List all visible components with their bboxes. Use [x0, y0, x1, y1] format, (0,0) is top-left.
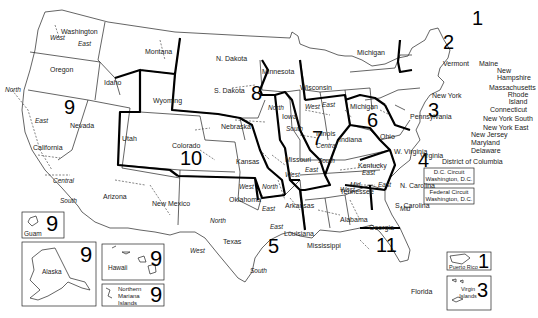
state-michigan-east: Michigan [350, 103, 378, 110]
circuit-8-label: 8 [251, 83, 262, 103]
district-mo-west: West [285, 172, 300, 179]
state-delaware: Delaware [471, 147, 501, 154]
puerto-rico-circuit: 1 [478, 251, 489, 271]
state-iowa: Iowa [282, 113, 297, 120]
state-missouri: Missouri [285, 156, 311, 163]
state-kentucky: Kentucky [358, 162, 387, 169]
state-nevada: Nevada [70, 122, 94, 129]
virgin-islands-label: Virgin Islands [459, 286, 477, 299]
state-s-dakota: S. Dakota [214, 87, 245, 94]
state-colorado: Colorado [172, 142, 200, 149]
state-maine: Maine [479, 60, 498, 67]
district-ia-north: North [268, 105, 284, 112]
state-minnesota: Minnesota [262, 68, 294, 75]
district-wi-east: East [322, 102, 335, 109]
state-new-mexico: New Mexico [152, 200, 190, 207]
state-oregon: Oregon [50, 66, 73, 73]
district-tx-east: East [270, 224, 283, 231]
district-fl-mid: Mid [400, 206, 410, 213]
guam-label: Guam [24, 230, 42, 238]
circuit-5-label: 5 [268, 236, 279, 256]
district-wa-east: East [78, 41, 91, 48]
district-ok-west: West [239, 184, 254, 191]
district-tx-west: West [190, 248, 205, 255]
state-montana: Montana [145, 48, 172, 55]
state-texas: Texas [223, 238, 241, 245]
district-ca-central: Central [53, 178, 74, 185]
district-ok-north: North [262, 184, 278, 191]
federal-circuit-location: Washington, D.C. [424, 196, 474, 203]
district-ca-north: North [5, 87, 21, 94]
state-alabama: Alabama [340, 216, 368, 223]
state-washington: Washington [61, 28, 98, 35]
dc-circuit-title: D.C. Circuit [424, 169, 474, 176]
state-arkansas: Arkansas [285, 202, 314, 209]
district-ky-east: East [362, 170, 375, 177]
state-dc: District of Columbia [442, 158, 503, 165]
circuit-6-label: 6 [367, 110, 378, 130]
state-california: California [33, 144, 63, 151]
guam-circuit: 9 [46, 213, 58, 235]
state-connecticut: Connecticut [490, 106, 527, 113]
puerto-rico-label: Puerto Rico [449, 264, 478, 271]
federal-circuit-title: Federal Circuit [424, 189, 474, 196]
state-rhode-island: Rhode Island [503, 91, 533, 105]
district-tx-north: North [210, 218, 226, 225]
district-wa-west: West [50, 35, 65, 42]
state-indiana: Indiana [339, 136, 362, 143]
district-ia-south: South [286, 126, 303, 133]
state-nebraska: Nebraska [221, 123, 251, 130]
district-ca-east: East [35, 118, 48, 125]
state-idaho: Idaho [104, 79, 122, 86]
state-florida: Florida [411, 288, 432, 295]
state-wyoming: Wyoming [153, 97, 182, 104]
district-ok-east: East [262, 206, 275, 213]
state-new-york-east: New York East [483, 124, 529, 131]
nmi-label: Northern Mariana Islands [118, 286, 152, 308]
state-mississippi: Mississippi [307, 242, 341, 249]
state-louisiana: Louisiana [284, 230, 314, 237]
circuit-11-label: 11 [376, 235, 397, 255]
state-w-virginia: W. Virginia [394, 148, 427, 155]
alaska-label: Alaska [42, 268, 62, 276]
state-wisconsin: Wisconsin [300, 84, 332, 91]
state-georgia: Georgia [369, 224, 394, 231]
district-ca-south: South [60, 198, 77, 205]
state-illinois: Illinois [316, 130, 335, 137]
state-new-york-south: New York South [483, 115, 533, 122]
state-ohio: Ohio [380, 133, 395, 140]
state-vermont: Vermont [443, 60, 469, 67]
state-michigan-west: Michigan [357, 49, 385, 56]
district-tx-south: South [250, 268, 267, 275]
circuit-10-label: 10 [180, 148, 202, 168]
state-n-dakota: N. Dakota [216, 55, 247, 62]
district-mo-east: East [305, 167, 318, 174]
alaska-circuit: 9 [80, 244, 92, 266]
circuit-9-label: 9 [64, 97, 75, 117]
state-oklahoma: Oklahoma [229, 196, 261, 203]
hawaii-circuit: 9 [150, 248, 162, 270]
circuit-1-label: 1 [472, 8, 483, 28]
circuit-map: 1 2 3 4 5 6 7 8 9 10 11 Washington Orego… [0, 0, 538, 318]
state-massachusetts: Massachusetts [489, 84, 536, 91]
district-tn-mid: Mid [350, 182, 360, 189]
state-kansas: Kansas [236, 158, 259, 165]
district-il-central: Central [316, 143, 337, 150]
virgin-islands-circuit: 3 [477, 280, 488, 300]
district-tn-east: East [378, 182, 391, 189]
state-new-jersey: New Jersey [471, 131, 508, 138]
district-wi-west: West [305, 104, 320, 111]
state-utah: Utah [122, 135, 137, 142]
hawaii-label: Hawaii [108, 264, 128, 272]
district-il-south: South [318, 158, 335, 165]
state-pennsylvania: Pennsylvania [410, 113, 452, 120]
federal-circuit-box: Federal Circuit Washington, D.C. [424, 189, 474, 203]
state-new-hampshire: New Hampshire [497, 67, 537, 81]
circuit-2-label: 2 [443, 32, 454, 52]
dc-circuit-location: Washington, D.C. [424, 176, 474, 183]
state-arizona: Arizona [103, 193, 127, 200]
dc-circuit-box: D.C. Circuit Washington, D.C. [424, 169, 474, 183]
state-maryland: Maryland [471, 139, 500, 146]
state-new-york: New York [432, 92, 462, 99]
